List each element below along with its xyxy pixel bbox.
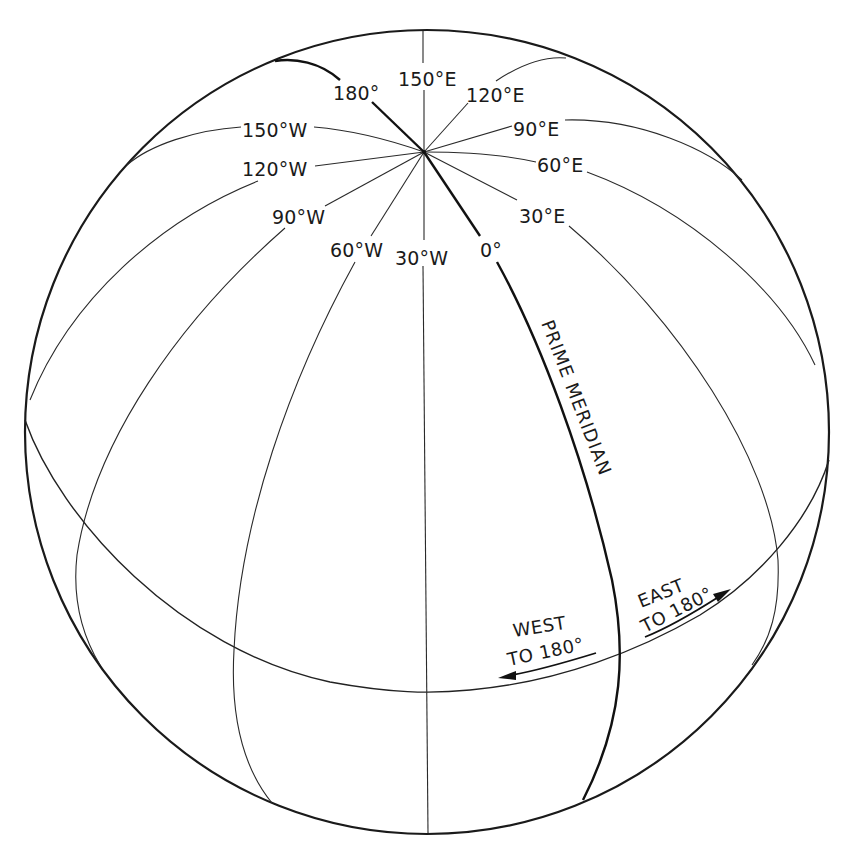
meridian-60w-lower [233, 262, 355, 803]
label-120e: 120°E [466, 84, 525, 106]
label-60e: 60°E [537, 154, 583, 176]
meridian-90e-outer [565, 120, 742, 180]
meridian-180-rim [275, 60, 340, 80]
label-60w: 60°W [330, 239, 383, 261]
meridian-120w-outer [30, 181, 258, 400]
west-annotation: WEST TO 180° [498, 612, 596, 680]
meridian-60w-upper [371, 152, 424, 236]
north-pole-point [422, 150, 426, 154]
meridian-150e [423, 31, 424, 152]
meridian-60e-outer [587, 172, 815, 365]
meridian-150w-inner [314, 127, 424, 152]
meridian-30w-lower [423, 266, 428, 833]
meridian-120e-upper [424, 103, 468, 152]
meridian-120e-rim [496, 58, 566, 81]
label-180: 180° [333, 82, 380, 104]
label-90e: 90°E [513, 118, 559, 140]
west-label-line1: WEST [511, 612, 568, 641]
label-90w: 90°W [272, 206, 325, 228]
meridian-90e-inner [424, 126, 512, 152]
meridian-120w-inner [315, 152, 424, 166]
meridian-90w-lower [76, 228, 285, 665]
label-0: 0° [480, 239, 502, 261]
east-annotation: EAST TO 180° [635, 574, 731, 637]
label-30w: 30°W [395, 247, 448, 269]
prime-meridian-upper [424, 152, 480, 236]
meridian-30e-inner [424, 152, 517, 200]
meridian-180-upper [372, 102, 424, 152]
equator-line [25, 420, 829, 692]
globe-diagram: 180° 150°E 120°E 90°E 60°E 30°E 0° 30°W … [0, 0, 848, 845]
label-150e: 150°E [398, 68, 457, 90]
label-150w: 150°W [242, 119, 308, 141]
label-30e: 30°E [519, 205, 565, 227]
west-arrow-head-icon [498, 671, 516, 680]
label-120w: 120°W [242, 158, 308, 180]
meridian-90w-upper [325, 152, 424, 206]
